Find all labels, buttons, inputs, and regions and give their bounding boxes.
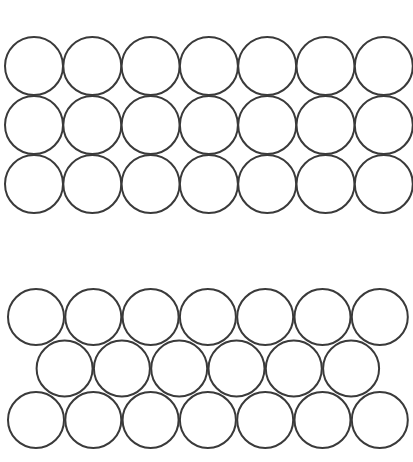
- circle: [123, 289, 179, 345]
- circle: [297, 96, 355, 154]
- circle: [237, 392, 293, 448]
- circle: [323, 341, 379, 397]
- circle: [63, 155, 121, 213]
- circle: [5, 96, 63, 154]
- circle: [237, 289, 293, 345]
- circle: [295, 392, 351, 448]
- circle: [8, 289, 64, 345]
- circle: [122, 155, 180, 213]
- circle: [94, 341, 150, 397]
- circle: [352, 392, 408, 448]
- circle: [123, 392, 179, 448]
- circle: [180, 392, 236, 448]
- circle: [180, 37, 238, 95]
- circle: [63, 96, 121, 154]
- circle: [151, 341, 207, 397]
- circle-packing-diagram: [0, 0, 413, 462]
- circle: [295, 289, 351, 345]
- circle: [180, 155, 238, 213]
- circle: [297, 37, 355, 95]
- circle: [65, 392, 121, 448]
- circle: [209, 341, 265, 397]
- circle: [63, 37, 121, 95]
- circle: [355, 155, 413, 213]
- circle: [122, 96, 180, 154]
- circle: [65, 289, 121, 345]
- circle: [5, 37, 63, 95]
- circle: [238, 96, 296, 154]
- circle: [37, 341, 93, 397]
- circle: [238, 37, 296, 95]
- circle: [355, 37, 413, 95]
- circle: [8, 392, 64, 448]
- square-packing-group: [5, 37, 413, 213]
- circle: [266, 341, 322, 397]
- circle: [180, 289, 236, 345]
- circle: [5, 155, 63, 213]
- circle: [355, 96, 413, 154]
- hexagonal-packing-group: [8, 289, 408, 448]
- circle: [180, 96, 238, 154]
- circle: [297, 155, 355, 213]
- circle: [352, 289, 408, 345]
- circle: [122, 37, 180, 95]
- circle: [238, 155, 296, 213]
